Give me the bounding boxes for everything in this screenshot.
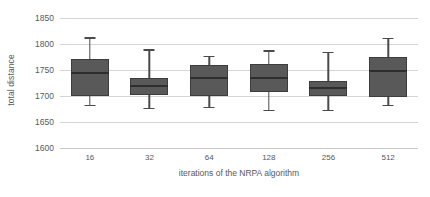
lower-whisker-stem (387, 97, 388, 105)
median-line (369, 70, 407, 72)
box-plot-64 (179, 0, 239, 148)
lower-whisker-cap (383, 105, 394, 106)
x-axis-title: iterations of the NRPA algorithm (60, 168, 418, 178)
lower-whisker-cap (84, 105, 95, 106)
plot-area (60, 0, 418, 148)
median-line (71, 72, 109, 74)
upper-whisker-stem (89, 37, 90, 58)
upper-whisker-cap (263, 50, 274, 51)
box-plot-128 (239, 0, 299, 148)
box-plot-512 (358, 0, 418, 148)
median-line (190, 77, 228, 79)
y-tick-label: 1600 (20, 144, 54, 153)
boxplot-chart: total distance 185018001750170016501600 … (0, 0, 430, 197)
x-tick-label-16: 16 (68, 153, 112, 162)
lower-whisker-cap (144, 108, 155, 109)
y-axis-title-text: total distance (6, 54, 16, 106)
x-axis-line (60, 148, 418, 149)
lower-whisker-cap (204, 107, 215, 108)
upper-whisker-stem (387, 38, 388, 57)
median-line (309, 87, 347, 89)
box-plot-16 (60, 0, 120, 148)
median-line (250, 77, 288, 79)
lower-whisker-stem (149, 95, 150, 108)
median-line (130, 85, 168, 87)
upper-whisker-cap (323, 52, 334, 53)
y-tick-label: 1850 (20, 14, 54, 23)
box-rect (190, 65, 228, 96)
upper-whisker-cap (204, 56, 215, 57)
x-tick-label-512: 512 (366, 153, 410, 162)
y-tick-label: 1750 (20, 66, 54, 75)
lower-whisker-stem (89, 96, 90, 105)
lower-whisker-cap (323, 110, 334, 111)
y-tick-label: 1700 (20, 92, 54, 101)
x-tick-label-64: 64 (187, 153, 231, 162)
y-tick-label: 1800 (20, 40, 54, 49)
y-tick-label-group: 185018001750170016501600 (16, 0, 54, 197)
box-rect (369, 57, 407, 97)
lower-whisker-stem (328, 96, 329, 110)
upper-whisker-cap (383, 38, 394, 39)
lower-whisker-stem (208, 96, 209, 107)
upper-whisker-stem (328, 52, 329, 81)
lower-whisker-stem (268, 92, 269, 110)
box-plot-256 (299, 0, 359, 148)
box-plot-32 (120, 0, 180, 148)
x-tick-label-32: 32 (128, 153, 172, 162)
upper-whisker-cap (84, 37, 95, 38)
lower-whisker-cap (263, 110, 274, 111)
box-rect (71, 59, 109, 96)
upper-whisker-stem (268, 50, 269, 64)
x-tick-label-128: 128 (247, 153, 291, 162)
x-tick-label-256: 256 (307, 153, 351, 162)
upper-whisker-stem (149, 49, 150, 78)
y-tick-label: 1650 (20, 118, 54, 127)
upper-whisker-cap (144, 49, 155, 50)
